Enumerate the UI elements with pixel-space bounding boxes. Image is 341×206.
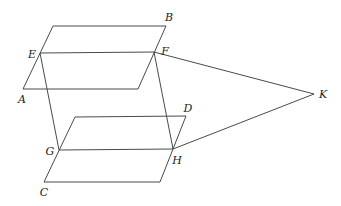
geometry-diagram: B E F A D G H C K: [0, 0, 341, 206]
segment-fk: [154, 52, 314, 94]
diagram-canvas: [0, 0, 341, 206]
label-g: G: [46, 146, 55, 157]
label-k: K: [319, 89, 327, 100]
label-d: D: [184, 103, 193, 114]
label-c: C: [40, 187, 48, 198]
upper-plane: [23, 26, 166, 89]
label-a: A: [18, 94, 26, 105]
segment-fh: [154, 52, 173, 149]
segment-ef: [40, 52, 154, 53]
segment-gh: [59, 149, 173, 150]
label-h: H: [172, 155, 182, 166]
segment-hk: [173, 94, 314, 149]
label-e: E: [28, 49, 36, 60]
segment-eg: [40, 53, 59, 150]
label-b: B: [165, 12, 173, 23]
label-f: F: [161, 46, 169, 57]
